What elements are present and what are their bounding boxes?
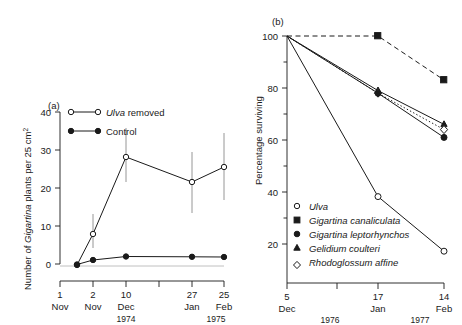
panel-b-y-axis-title: Percentage surviving [253,96,264,185]
panel-b-series-gelidium-line [287,36,444,124]
y-title-pre: Number of [22,243,33,290]
figure-container: (a) Number of Gigartina plants per 25 cm… [0,0,462,325]
panel-b-label: (b) [272,16,284,27]
panel-b-ytick-40: 40 [267,187,278,198]
panel-a-xtick-day-2: 10 [121,289,132,300]
panel-a-xtick-day-5: 25 [219,289,230,300]
filled-square-icon [294,217,300,223]
panel-b-xtick-month-0: Dec [279,303,296,314]
panel-b-ytick-80: 80 [267,83,278,94]
panel-b-year-left: 1976 [321,315,340,325]
panel-a: (a) Number of Gigartina plants per 25 cm… [22,100,233,324]
panel-a-legend-label-0: Ulva removed [106,107,165,118]
y-title-italic: Gigartina [22,204,33,243]
panel-b-xtick-month-1: Jan [370,303,385,314]
panel-a-legend: Ulva removed Control [68,107,164,137]
panel-b-ytick-60: 60 [267,135,278,146]
panel-b-x-ticks [287,283,444,289]
panel-a-xtick-month-2: Dec [118,301,135,312]
filled-circle-icon [68,128,73,133]
open-diamond-icon [294,261,301,268]
panel-a-xtick-day-4: 27 [187,289,198,300]
panel-a-xtick-month-4: Jan [184,301,199,312]
panel-a-ytick-0: 0 [46,259,51,270]
panel-b-ytick-20: 20 [267,239,278,250]
filled-triangle-icon [294,244,300,250]
panel-b-year-right: 1977 [411,315,430,325]
panel-a-xtick-day-1: 2 [90,289,95,300]
panel-a-xtick-month-0: Nov [52,301,69,312]
panel-a-ytick-20: 20 [40,183,51,194]
panel-b-legend-label-2: Gigartina leptorhynchos [309,229,410,240]
panel-a-xtick-day-0: 1 [57,289,62,300]
filled-circle-icon [95,128,100,133]
panel-a-series-ulva-removed-markers [74,154,226,267]
panel-b-y-ticks [282,36,287,244]
panel-b-ytick-100: 100 [262,31,278,42]
panel-a-year-right: 1975 [207,314,226,324]
panel-b-legend-label-1: Gigartina canaliculata [309,215,400,226]
panel-b: (b) Percentage surviving 100 80 60 40 [253,16,452,325]
panel-b-xtick-month-2: Feb [436,303,452,314]
panel-a-legend-item-0: Ulva removed [68,107,164,118]
panel-b-series-g-leptorhynchos-line [287,36,444,137]
panel-b-legend-label-0: Ulva [309,201,328,212]
panel-a-xtick-month-1: Nov [85,301,102,312]
panel-a-series-control-markers [74,254,226,267]
panel-a-x-ticks [60,281,224,287]
panel-a-legend-item-1: Control [68,126,136,137]
panel-b-xtick-day-1: 17 [373,291,384,302]
panel-a-y-ticks [55,112,60,264]
panel-a-series-control-line [77,257,224,265]
panel-b-xtick-day-2: 14 [439,291,450,302]
open-circle-icon [294,203,299,208]
panel-a-ytick-10: 10 [40,221,51,232]
figure-svg: (a) Number of Gigartina plants per 25 cm… [0,0,462,325]
svg-text:Number of Gigartina plants per: Number of Gigartina plants per 25 cm2 [22,128,34,290]
panel-b-legend-label-3: Gelidium coulteri [309,243,381,254]
open-circle-icon [68,109,73,114]
panel-a-ytick-40: 40 [40,107,51,118]
filled-circle-icon [294,231,300,237]
panel-a-year-left: 1974 [117,314,136,324]
panel-b-legend: Ulva Gigartina canaliculata Gigartina le… [294,201,410,269]
panel-b-xtick-day-0: 5 [284,291,289,302]
open-circle-icon [95,109,100,114]
panel-a-xtick-month-5: Feb [216,301,232,312]
panel-b-series-g-canaliculata-line [287,36,444,80]
panel-a-series-ulva-removed-line [77,157,224,265]
y-title-sup: 2 [22,128,29,132]
panel-a-ytick-30: 30 [40,145,51,156]
panel-a-legend-label-1: Control [106,126,137,137]
svg-text:Percentage surviving: Percentage surviving [253,96,264,185]
panel-a-y-axis-title: Number of Gigartina plants per 25 cm2 [22,128,34,290]
panel-b-legend-label-4: Rhodoglossum affine [309,257,398,268]
y-title-post: plants per 25 cm [22,131,33,204]
